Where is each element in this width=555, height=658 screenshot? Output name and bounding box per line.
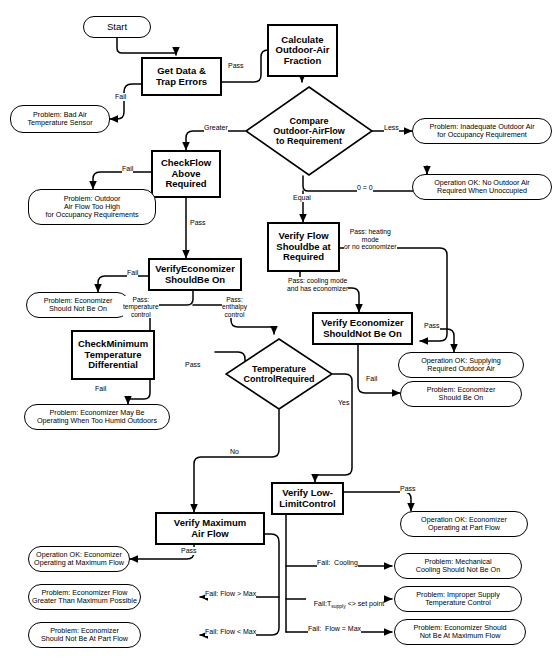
node-problem-flow-greater-than-max[interactable]: Problem: Economizer Flow Greater Than Ma…	[28, 584, 141, 610]
edge-label-fail-verify-econ-on: Fail	[127, 269, 138, 277]
edge-label-fail-flow-greater-max: Fail: Flow > Max	[205, 590, 256, 598]
fail-tsupply-prefix: Fail:T	[314, 600, 332, 607]
edge-label-pass-check-min-temp: Pass	[185, 361, 201, 369]
node-problem-bad-sensor[interactable]: Problem: Bad Air Temperature Sensor	[10, 105, 110, 133]
node-problem-economizer-should-not-be-on[interactable]: Problem: Economizer Should Not Be On	[26, 292, 130, 318]
fail-tsupply-suffix: <> set point	[346, 600, 385, 607]
node-problem-mechanical-cooling[interactable]: Problem: Mechanical Cooling Should Not B…	[394, 553, 522, 579]
edge-label-pass-heating-mode: Pass: heating mode or no economizer	[344, 228, 397, 251]
node-op-ok-part-flow[interactable]: Operation OK: Economizer Operating at Pa…	[400, 511, 528, 537]
edge-label-no: No	[230, 448, 239, 456]
edge-label-fail-cooling: Fail: Cooling	[317, 559, 358, 567]
node-problem-improper-supply-temperature[interactable]: Problem: Improper Supply Temperature Con…	[394, 586, 522, 612]
edge-label-fail-get-data: Fail	[115, 93, 126, 101]
node-problem-inadequate-outdoor-air[interactable]: Problem: Inadequate Outdoor Air for Occu…	[412, 118, 552, 144]
node-problem-economizer-should-be-on[interactable]: Problem: Economizer Should Be On	[400, 381, 522, 407]
edge-label-greater: Greater	[204, 124, 228, 132]
node-op-ok-supplying-required-outdoor-air[interactable]: Operation OK: Supplying Required Outdoor…	[398, 352, 524, 378]
node-op-ok-no-oa-required[interactable]: Operation OK: No Outdoor Air Required Wh…	[412, 174, 552, 200]
edge-label-pass-low-limit: Pass	[400, 485, 416, 493]
node-get-data-trap-errors[interactable]: Get Data & Trap Errors	[141, 57, 222, 96]
edge-label-equal: Equal	[293, 194, 311, 202]
edge-label-pass-get-data: Pass	[228, 62, 244, 70]
node-verify-maximum-air-flow[interactable]: Verify Maximum Air Flow	[155, 512, 265, 545]
edge-label-pass-verify-econ-not-on: Pass	[424, 322, 440, 330]
flowchart-canvas: Start Get Data & Trap Errors Problem: Ba…	[0, 0, 555, 658]
edge-label-fail-check-min-temp: Fail	[95, 385, 106, 393]
edge-label-pass-temperature-control: Pass: temperature control	[123, 296, 159, 318]
edge-label-fail-tsupply-setpoint: Fail:Tsupply <> set point	[306, 592, 384, 618]
node-problem-not-at-maximum-flow[interactable]: Problem: Economizer Should Not Be At Max…	[394, 619, 526, 645]
node-problem-oa-too-high[interactable]: Problem: Outdoor Air Flow Too High for O…	[28, 189, 156, 225]
edge-label-pass-cooling-mode: Pass: cooling mode and has economizer	[287, 277, 348, 292]
edge-label-pass-max-air-flow: Pass	[181, 547, 197, 555]
edge-label-fail-check-flow: Fail	[122, 165, 133, 173]
node-check-minimum-temperature-differential[interactable]: CheckMinimum Temperature Differential	[71, 330, 155, 380]
edge-label-pass-enthalpy-control: Pass: enthalpy control	[222, 296, 247, 318]
node-verify-low-limit-control[interactable]: Verify Low- LimitControl	[271, 482, 344, 515]
edge-label-fail-flow-equals-max: Fail: Flow = Max	[308, 625, 361, 633]
edge-label-fail-flow-less-max: Fail: Flow < Max	[205, 628, 256, 636]
node-calculate-oa-fraction[interactable]: Calculate Outdoor-Air Fraction	[267, 24, 338, 77]
node-problem-economizer-too-humid[interactable]: Problem: Economizer May Be Operating Whe…	[24, 404, 170, 430]
node-problem-should-not-be-at-part-flow[interactable]: Problem: Economizer Should Not Be At Par…	[28, 622, 141, 648]
node-temperature-control-label: Temperature ControlRequired	[225, 338, 333, 410]
node-compare-label: Compare Outdoor-AirFlow to Requirement	[245, 86, 373, 176]
node-start[interactable]: Start	[83, 16, 151, 38]
fail-tsupply-subscript: supply	[331, 603, 345, 609]
node-compare-outdoor-airflow[interactable]: Compare Outdoor-AirFlow to Requirement	[245, 86, 373, 176]
node-temperature-control-required[interactable]: Temperature ControlRequired	[225, 338, 333, 410]
edge-label-pass-check-flow: Pass	[190, 219, 206, 227]
node-verify-economizer-should-be-on[interactable]: VerifyEconomizer ShouldBe On	[148, 258, 242, 291]
edge-label-less: Less	[384, 124, 399, 132]
node-op-ok-maximum-flow[interactable]: Operation OK: Economizer Operating at Ma…	[28, 546, 130, 572]
node-verify-flow-should-be-at-required[interactable]: Verify Flow Shouldbe at Required	[267, 222, 340, 272]
node-check-flow-above-required[interactable]: CheckFlow Above Required	[151, 150, 221, 198]
edge-label-zero-equals-zero: 0 = 0	[357, 184, 373, 192]
edge-label-yes: Yes	[338, 399, 349, 407]
edge-label-fail-verify-econ-not-on: Fail	[366, 375, 377, 383]
